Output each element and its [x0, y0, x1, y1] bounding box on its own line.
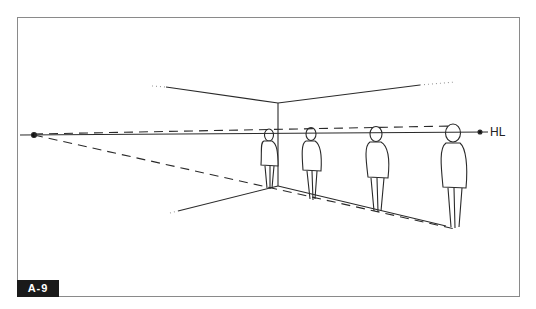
floor-right-line	[278, 186, 446, 226]
horizon-line	[20, 132, 488, 135]
ceiling-left-line	[166, 87, 278, 103]
foot-line-dashed	[34, 135, 455, 229]
ceiling-left-extension	[152, 86, 166, 87]
figure-2	[302, 128, 321, 201]
figure-1	[261, 129, 278, 189]
ceiling-right-line	[278, 85, 420, 103]
ceiling-right-extension	[420, 82, 455, 85]
floor-left-line	[178, 186, 278, 211]
floor-left-extension	[170, 211, 178, 213]
figure-3	[366, 127, 389, 213]
perspective-diagram: HL	[0, 0, 536, 309]
horizon-label: HL	[490, 125, 506, 139]
figure-badge: A-9	[17, 280, 59, 297]
vanishing-point-right	[478, 130, 482, 134]
figure-4	[441, 124, 467, 228]
